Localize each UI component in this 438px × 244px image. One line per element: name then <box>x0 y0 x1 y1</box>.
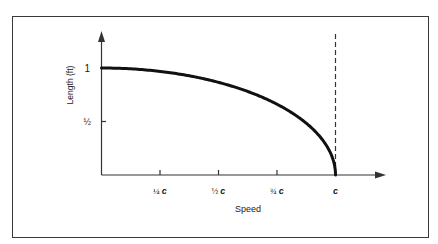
x-tick-label-three-quarter-c: ¾c <box>270 186 284 196</box>
y-axis <box>98 31 106 175</box>
y-tick-label-half: ½ <box>83 117 91 127</box>
x-axis <box>102 170 387 179</box>
x-axis-label: Speed <box>235 204 261 214</box>
x-tick-label-c: c <box>333 186 338 196</box>
x-tick-label-half-c: ½c <box>212 186 226 196</box>
x-axis-arrow-icon <box>375 172 386 179</box>
length-curve <box>102 68 336 175</box>
chart-plot: 1 ½ Length (ft) ¼c ½c ¾c c Speed <box>0 0 438 244</box>
x-tick-label-quarter-c: ¼c <box>153 186 167 196</box>
y-axis-arrow-icon <box>98 31 105 42</box>
y-tick-label-1: 1 <box>84 63 90 74</box>
y-axis-label: Length (ft) <box>65 65 75 104</box>
